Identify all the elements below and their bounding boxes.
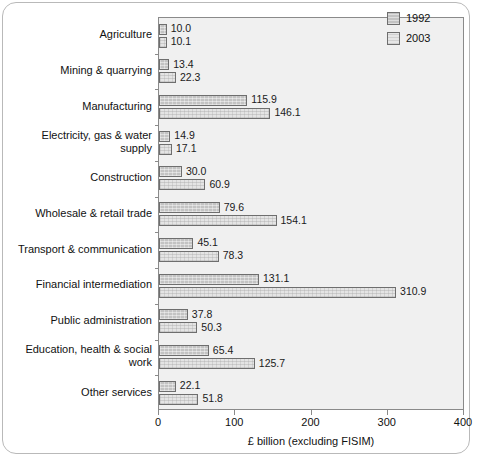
- category-label: Public administration: [8, 314, 158, 327]
- bar-1992: [159, 166, 182, 177]
- plot-area: 10.010.113.422.3115.9146.114.917.130.060…: [158, 17, 464, 410]
- category-label: Transport & communication: [8, 243, 158, 256]
- category-tick: [155, 232, 159, 233]
- bar-group: 131.1310.9: [159, 268, 463, 304]
- category-tick: [155, 340, 159, 341]
- bar-value-label: 45.1: [197, 237, 217, 248]
- bar-1992: [159, 274, 259, 285]
- category-tick: [155, 304, 159, 305]
- bar-value-label: 22.1: [180, 380, 200, 391]
- bar-value-label: 13.4: [173, 59, 193, 70]
- bar-1992: [159, 24, 167, 35]
- bar-value-label: 10.0: [171, 23, 191, 34]
- category-tick: [155, 89, 159, 90]
- x-axis-tick-label: 100: [225, 416, 243, 428]
- bar-value-label: 50.3: [201, 322, 221, 333]
- bar-value-label: 131.1: [263, 273, 289, 284]
- category-label: Manufacturing: [8, 100, 158, 113]
- figure-frame: AgricultureMining & quarryingManufacturi…: [2, 2, 470, 454]
- category-axis-labels: AgricultureMining & quarryingManufacturi…: [3, 17, 158, 410]
- bar-1992: [159, 345, 209, 356]
- category-label: Financial intermediation: [8, 278, 158, 291]
- swatch-2003-icon: [387, 32, 400, 45]
- bar-1992: [159, 381, 176, 392]
- bar-group: 14.917.1: [159, 125, 463, 161]
- bar-value-label: 65.4: [213, 345, 233, 356]
- x-axis-tick-label: 300: [378, 416, 396, 428]
- category-tick: [155, 375, 159, 376]
- bar-value-label: 115.9: [251, 94, 277, 105]
- bar-2003: [159, 322, 197, 333]
- bar-group: 79.6154.1: [159, 197, 463, 233]
- x-axis-tick-label: 0: [155, 416, 161, 428]
- bar-group: 65.4125.7: [159, 340, 463, 376]
- bar-1992: [159, 309, 188, 320]
- x-axis-tick-label: 200: [301, 416, 319, 428]
- bar-group: 115.9146.1: [159, 89, 463, 125]
- category-tick: [155, 197, 159, 198]
- bar-value-label: 17.1: [176, 143, 196, 154]
- category-label: Wholesale & retail trade: [8, 207, 158, 220]
- x-axis-tick: [311, 410, 312, 415]
- bar-1992: [159, 95, 247, 106]
- x-axis-tick: [158, 410, 159, 415]
- bar-group: 30.060.9: [159, 161, 463, 197]
- category-tick: [155, 54, 159, 55]
- bar-value-label: 78.3: [223, 250, 243, 261]
- x-axis-title: £ billion (excluding FISIM): [158, 435, 464, 447]
- bar-1992: [159, 238, 193, 249]
- bar-2003: [159, 108, 270, 119]
- category-label: Mining & quarrying: [8, 64, 158, 77]
- bar-value-label: 37.8: [192, 309, 212, 320]
- bar-2003: [159, 144, 172, 155]
- bar-2003: [159, 287, 396, 298]
- bar-2003: [159, 215, 277, 226]
- bar-value-label: 10.1: [171, 36, 191, 47]
- bar-group: 13.422.3: [159, 54, 463, 90]
- category-tick: [155, 268, 159, 269]
- bar-value-label: 154.1: [281, 215, 307, 226]
- bar-group: 22.151.8: [159, 375, 463, 411]
- bar-2003: [159, 72, 176, 83]
- category-label: Agriculture: [8, 28, 158, 41]
- bar-group: 37.850.3: [159, 304, 463, 340]
- legend-label: 2003: [406, 32, 430, 44]
- swatch-1992-icon: [387, 12, 400, 25]
- legend-item-2003: 2003: [387, 31, 459, 45]
- category-tick: [155, 161, 159, 162]
- bar-value-label: 22.3: [180, 72, 200, 83]
- category-label: Other services: [8, 386, 158, 399]
- bar-2003: [159, 394, 198, 405]
- category-tick: [155, 125, 159, 126]
- chart-legend: 19922003: [387, 11, 459, 51]
- x-axis-tick: [234, 410, 235, 415]
- category-label: Education, health & social work: [8, 343, 158, 369]
- bar-value-label: 79.6: [224, 202, 244, 213]
- bar-2003: [159, 251, 219, 262]
- bar-value-label: 30.0: [186, 166, 206, 177]
- bar-value-label: 60.9: [209, 179, 229, 190]
- bar-1992: [159, 59, 169, 70]
- legend-item-1992: 1992: [387, 11, 459, 25]
- x-axis-tick: [463, 410, 464, 415]
- bar-group: 45.178.3: [159, 232, 463, 268]
- bar-value-label: 14.9: [174, 130, 194, 141]
- x-axis-tick: [387, 410, 388, 415]
- category-label: Electricity, gas & water supply: [8, 129, 158, 155]
- category-label: Construction: [8, 171, 158, 184]
- bar-1992: [159, 202, 220, 213]
- bar-value-label: 310.9: [400, 286, 426, 297]
- x-axis-tick-labels: 0100200300400: [3, 416, 477, 432]
- bar-2003: [159, 179, 205, 190]
- bar-2003: [159, 37, 167, 48]
- x-axis-tick-label: 400: [454, 416, 472, 428]
- bar-1992: [159, 131, 170, 142]
- bar-value-label: 146.1: [274, 107, 300, 118]
- bar-2003: [159, 358, 255, 369]
- bar-value-label: 51.8: [202, 393, 222, 404]
- bar-value-label: 125.7: [259, 358, 285, 369]
- legend-label: 1992: [406, 12, 430, 24]
